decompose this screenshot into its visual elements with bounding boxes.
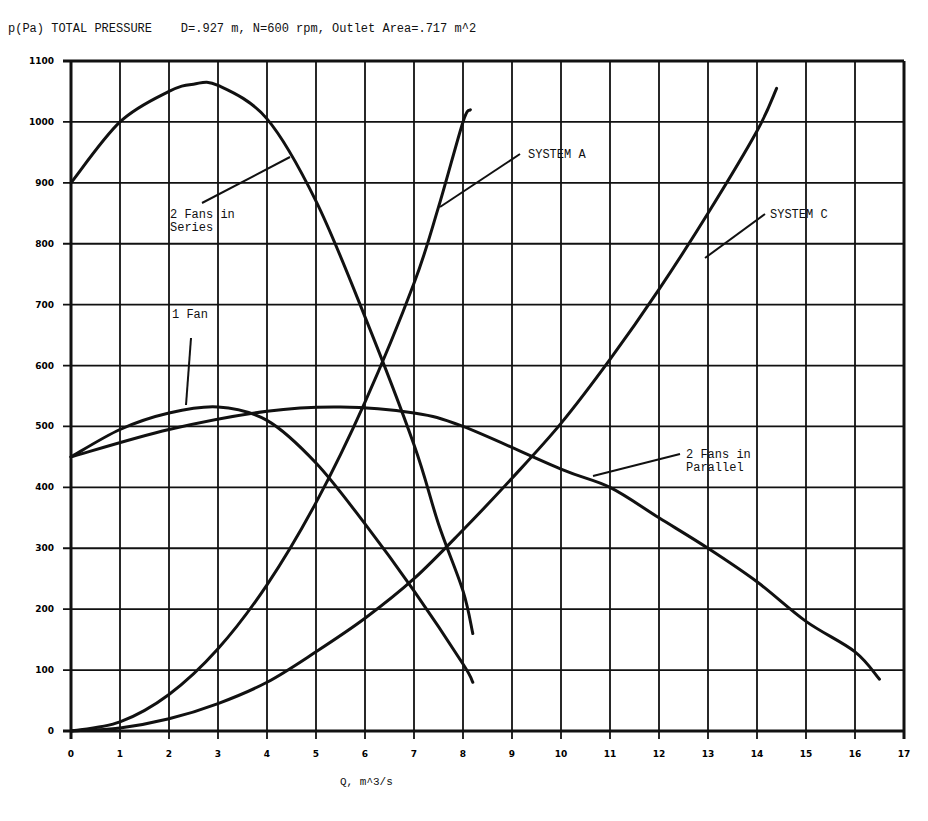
annotation-label: SYSTEM C bbox=[770, 208, 828, 222]
y-tick-label: 200 bbox=[35, 604, 54, 614]
curve-1-fan bbox=[71, 407, 473, 683]
x-tick-label: 10 bbox=[555, 749, 568, 759]
y-tick-label: 800 bbox=[35, 239, 54, 249]
annotation-label: Parallel bbox=[686, 461, 744, 475]
x-tick-label: 14 bbox=[751, 749, 764, 759]
annotation-leader bbox=[202, 157, 290, 203]
x-tick-label: 0 bbox=[68, 749, 74, 759]
x-tick-label: 1 bbox=[117, 749, 123, 759]
chart-plot: 0123456789101112131415161701002003004005… bbox=[0, 0, 928, 821]
x-tick-label: 17 bbox=[898, 749, 911, 759]
curve-2-fans-in-series bbox=[71, 82, 473, 633]
x-tick-label: 9 bbox=[509, 749, 515, 759]
y-tick-label: 900 bbox=[35, 178, 54, 188]
curve-system-c bbox=[71, 88, 777, 731]
y-tick-label: 600 bbox=[35, 361, 54, 371]
y-tick-label: 100 bbox=[35, 665, 54, 675]
x-tick-label: 11 bbox=[604, 749, 617, 759]
y-tick-label: 1000 bbox=[29, 117, 54, 127]
x-tick-label: 12 bbox=[653, 749, 666, 759]
x-tick-label: 16 bbox=[849, 749, 862, 759]
grid-lines: 0123456789101112131415161701002003004005… bbox=[29, 56, 910, 759]
x-tick-label: 15 bbox=[800, 749, 813, 759]
x-tick-label: 2 bbox=[166, 749, 172, 759]
annotation-label: 2 Fans in bbox=[170, 208, 235, 222]
annotation-leader bbox=[705, 214, 765, 258]
y-tick-label: 0 bbox=[48, 726, 54, 736]
x-tick-label: 5 bbox=[313, 749, 319, 759]
y-tick-label: 400 bbox=[35, 482, 54, 492]
y-tick-label: 500 bbox=[35, 421, 54, 431]
curve-system-a bbox=[71, 110, 470, 731]
annotation-leader bbox=[593, 454, 680, 476]
annotation-label: 1 Fan bbox=[172, 308, 208, 322]
x-tick-label: 4 bbox=[264, 749, 270, 759]
y-tick-label: 700 bbox=[35, 300, 54, 310]
x-axis-label: Q, m^3/s bbox=[340, 776, 393, 788]
annotation-label: Series bbox=[170, 221, 213, 235]
y-tick-label: 300 bbox=[35, 543, 54, 553]
x-tick-label: 3 bbox=[215, 749, 221, 759]
curves bbox=[71, 82, 880, 731]
curve-2-fans-in-parallel bbox=[71, 407, 880, 679]
annotation-leader bbox=[186, 338, 191, 405]
annotation-label: 2 Fans in bbox=[686, 448, 751, 462]
annotation-label: SYSTEM A bbox=[528, 148, 586, 162]
x-tick-label: 6 bbox=[362, 749, 368, 759]
x-tick-label: 13 bbox=[702, 749, 715, 759]
x-tick-label: 8 bbox=[460, 749, 466, 759]
x-tick-label: 7 bbox=[411, 749, 417, 759]
y-tick-label: 1100 bbox=[29, 56, 54, 66]
